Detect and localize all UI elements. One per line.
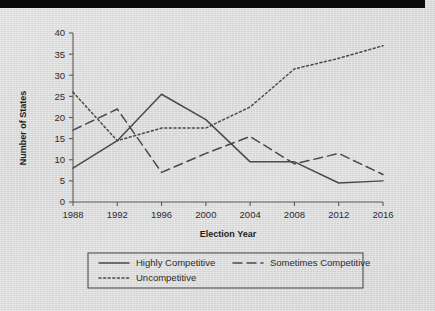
y-tick-label: 40 — [54, 27, 65, 38]
x-tick-label: 2004 — [240, 209, 261, 220]
y-tick-label: 5 — [60, 175, 65, 186]
x-tick-labels: 19881992199620002004200820122016 — [62, 209, 393, 220]
legend-label: Sometimes Competitive — [270, 257, 370, 268]
x-tick-marks — [73, 202, 383, 206]
data-series-group — [73, 46, 383, 183]
x-tick-label: 2012 — [328, 209, 349, 220]
y-tick-label: 15 — [54, 133, 65, 144]
series-line-highly-competitive — [73, 94, 383, 183]
x-tick-label: 2000 — [195, 209, 216, 220]
x-tick-label: 1988 — [62, 209, 83, 220]
chart-canvas: 0510152025303540 Number of States 198819… — [0, 8, 435, 311]
y-tick-label: 35 — [54, 49, 65, 60]
y-tick-marks — [69, 33, 73, 202]
legend-item-highly-competitive[interactable]: Highly Competitive — [99, 257, 215, 268]
series-line-uncompetitive — [73, 46, 383, 141]
legend-label: Highly Competitive — [136, 257, 215, 268]
y-tick-label: 30 — [54, 70, 65, 81]
y-tick-label: 0 — [60, 196, 65, 207]
legend-entries: Highly CompetitiveSometimes CompetitiveU… — [99, 257, 370, 283]
legend: Highly CompetitiveSometimes CompetitiveU… — [88, 253, 370, 288]
scan-top-black-bar — [0, 0, 425, 8]
x-tick-label: 2016 — [372, 209, 393, 220]
x-axis-title: Election Year — [200, 229, 257, 239]
y-tick-label: 25 — [54, 91, 65, 102]
line-chart-figure: 0510152025303540 Number of States 198819… — [0, 8, 435, 311]
x-axis: 19881992199620002004200820122016 Electio… — [62, 202, 393, 239]
y-tick-label: 10 — [54, 154, 65, 165]
series-line-sometimes-competitive — [73, 109, 383, 174]
y-tick-label: 20 — [54, 112, 65, 123]
x-tick-label: 1996 — [151, 209, 172, 220]
y-axis-title: Number of States — [18, 91, 28, 166]
legend-label: Uncompetitive — [136, 272, 196, 283]
legend-item-uncompetitive[interactable]: Uncompetitive — [99, 272, 196, 283]
y-axis: 0510152025303540 Number of States — [18, 27, 73, 207]
y-tick-labels: 0510152025303540 — [54, 27, 65, 207]
x-tick-label: 1992 — [107, 209, 128, 220]
legend-item-sometimes-competitive[interactable]: Sometimes Competitive — [233, 257, 370, 268]
x-tick-label: 2008 — [284, 209, 305, 220]
